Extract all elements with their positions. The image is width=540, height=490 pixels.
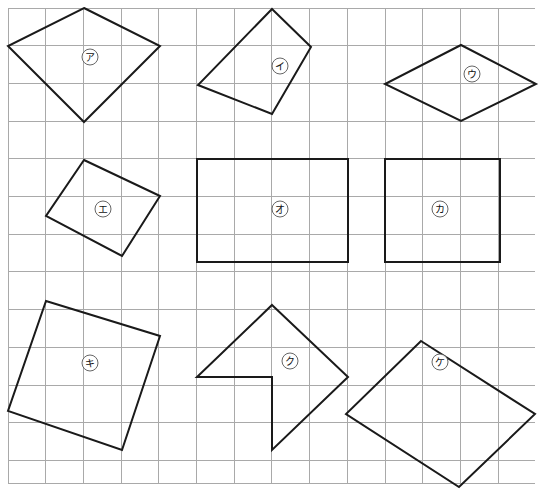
shape-ke-label: ケ — [432, 354, 448, 370]
label-text: ク — [285, 356, 295, 367]
shape-e-label: エ — [95, 201, 111, 217]
label-text: キ — [85, 358, 95, 369]
shape-ku-label: ク — [282, 353, 298, 369]
shape-i — [198, 9, 311, 114]
label-text: ウ — [467, 69, 477, 80]
figure-canvas: アイウエオカキクケ — [0, 0, 540, 490]
shape-o-label: オ — [272, 201, 288, 217]
label-text: エ — [98, 204, 108, 215]
shape-ki-label: キ — [82, 355, 98, 371]
shape-i-label: イ — [272, 58, 288, 74]
label-text: カ — [435, 204, 445, 215]
shape-ku — [197, 305, 348, 450]
label-text: イ — [275, 61, 285, 72]
shape-ka-label: カ — [432, 201, 448, 217]
label-text: オ — [275, 204, 285, 215]
shape-u-label: ウ — [464, 66, 480, 82]
label-text: ケ — [435, 357, 445, 368]
shape-a — [8, 8, 160, 122]
label-text: ア — [85, 52, 95, 63]
geometry-figure: アイウエオカキクケ — [0, 0, 540, 490]
shape-ki — [8, 301, 160, 450]
shape-a-label: ア — [82, 49, 98, 65]
